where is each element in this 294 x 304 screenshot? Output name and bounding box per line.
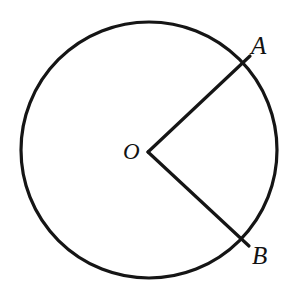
geometry-figure: A B O: [0, 0, 294, 304]
radius-line-ob: [148, 152, 249, 246]
radius-line-oa: [148, 56, 250, 152]
figure-canvas: [0, 0, 294, 304]
point-label-o: O: [123, 140, 140, 163]
point-label-a: A: [251, 33, 266, 58]
point-label-b: B: [252, 243, 267, 268]
